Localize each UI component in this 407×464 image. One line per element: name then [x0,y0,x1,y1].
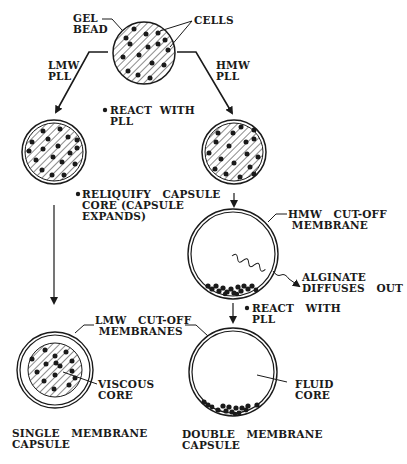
label-fluid-core: FLUID CORE [295,379,333,401]
label-react-with-pll-2: REACT WITH PLL [252,303,341,325]
lmw-membranes-leader-left [75,325,94,333]
lmw-coated-bead-node [22,120,86,184]
hmw-membrane-capsule-node [188,209,278,299]
hmw-membrane-leader [268,214,287,222]
single-membrane-capsule-node [17,332,93,408]
bullet-react-1 [103,108,107,112]
label-lmw-membranes: LMW CUT-OFF MEMBRANES [95,315,191,337]
label-react-with-pll-1: REACT WITH PLL [110,105,195,127]
bullet-reliquify [76,192,80,196]
label-reliquify: RELIQUIFY CAPSULE CORE (CAPSULE EXPANDS) [82,189,220,222]
fluid-core-leader [257,375,287,382]
label-double-membrane-capsule: DOUBLE MEMBRANE CAPSULE [182,429,323,451]
label-single-membrane-capsule: SINGLE MEMBRANE CAPSULE [12,428,147,450]
double-membrane-capsule-node [189,328,277,416]
bullet-react-2 [245,306,249,310]
label-lmw-pll: LMW PLL [48,60,79,82]
label-hmw-membrane: HMW CUT-OFF MEMBRANE [288,209,387,231]
hmw-coated-bead-node [202,120,266,184]
alginate-arrow [273,271,299,286]
gel-bead-node [113,22,175,84]
label-alginate: ALGINATE DIFFUSES OUT [302,272,403,294]
label-cells: CELLS [194,15,234,26]
label-gel-bead: GEL BEAD [73,13,108,35]
label-hmw-pll: HMW PLL [216,60,250,82]
label-viscous-core: VISCOUS CORE [98,379,154,401]
